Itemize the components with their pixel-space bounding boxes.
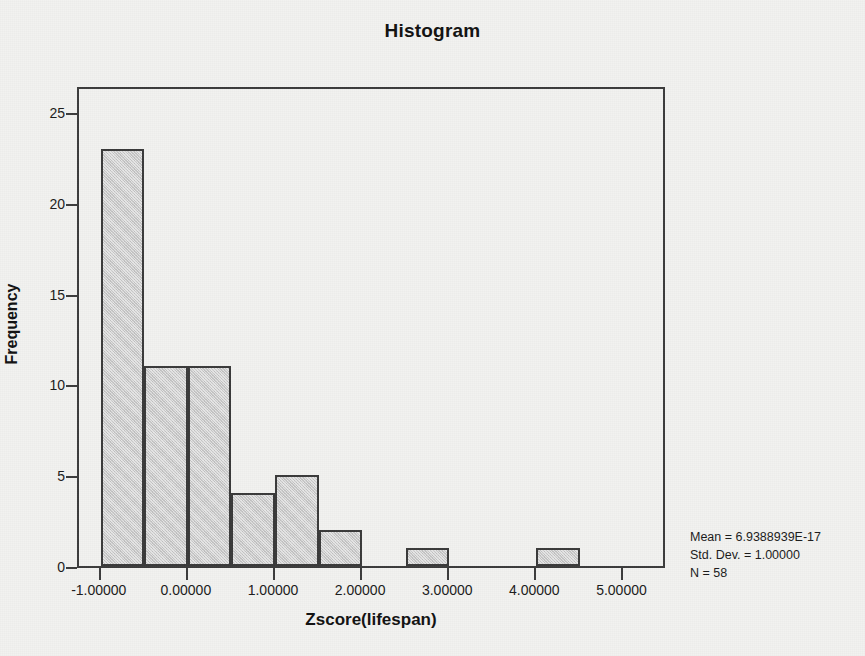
x-axis-tick-mark [273,568,275,580]
histogram-bar [188,366,232,566]
y-axis: 0510152025 Frequency [0,87,77,568]
statistics-annotation: Mean = 6.9388939E-17 Std. Dev. = 1.00000… [690,529,821,582]
plot-area [77,87,665,568]
y-axis-tick-label: 15 [49,287,65,303]
histogram-bar [231,493,275,566]
histogram-bar [319,530,363,566]
y-axis-tick-mark [66,295,77,297]
x-axis-tick-label: 0.00000 [161,582,212,598]
y-axis-tick-mark [66,385,77,387]
histogram-bar [101,149,145,566]
x-axis-tick-label: 1.00000 [248,582,299,598]
x-axis-tick-mark [186,568,188,580]
histogram-bar [144,366,188,566]
histogram-bar [536,548,580,566]
stat-mean: Mean = 6.9388939E-17 [690,529,821,547]
x-axis-tick-label: -1.00000 [71,582,126,598]
x-axis-tick-mark [447,568,449,580]
y-axis-tick-mark [66,204,77,206]
histogram-bar [275,475,319,566]
stat-n: N = 58 [690,565,821,583]
y-axis-tick-label: 5 [57,468,65,484]
page-title: Histogram [0,20,865,42]
x-axis-title: Zscore(lifespan) [77,610,665,630]
bars-container [79,89,663,566]
y-axis-tick-label: 20 [49,196,65,212]
histogram-bar [406,548,450,566]
y-axis-tick-label: 25 [49,105,65,121]
x-axis-tick-label: 4.00000 [509,582,560,598]
x-axis-tick-mark [360,568,362,580]
y-axis-tick-mark [66,476,77,478]
y-axis-tick-label: 10 [49,377,65,393]
x-axis-tick-label: 2.00000 [335,582,386,598]
x-axis-tick-mark [621,568,623,580]
x-axis-tick-mark [534,568,536,580]
x-axis-tick-label: 3.00000 [422,582,473,598]
x-axis-tick-mark [99,568,101,580]
y-axis-title: Frequency [3,224,21,424]
y-axis-tick-mark [66,113,77,115]
stat-std-dev: Std. Dev. = 1.00000 [690,547,821,565]
x-axis-tick-label: 5.00000 [596,582,647,598]
